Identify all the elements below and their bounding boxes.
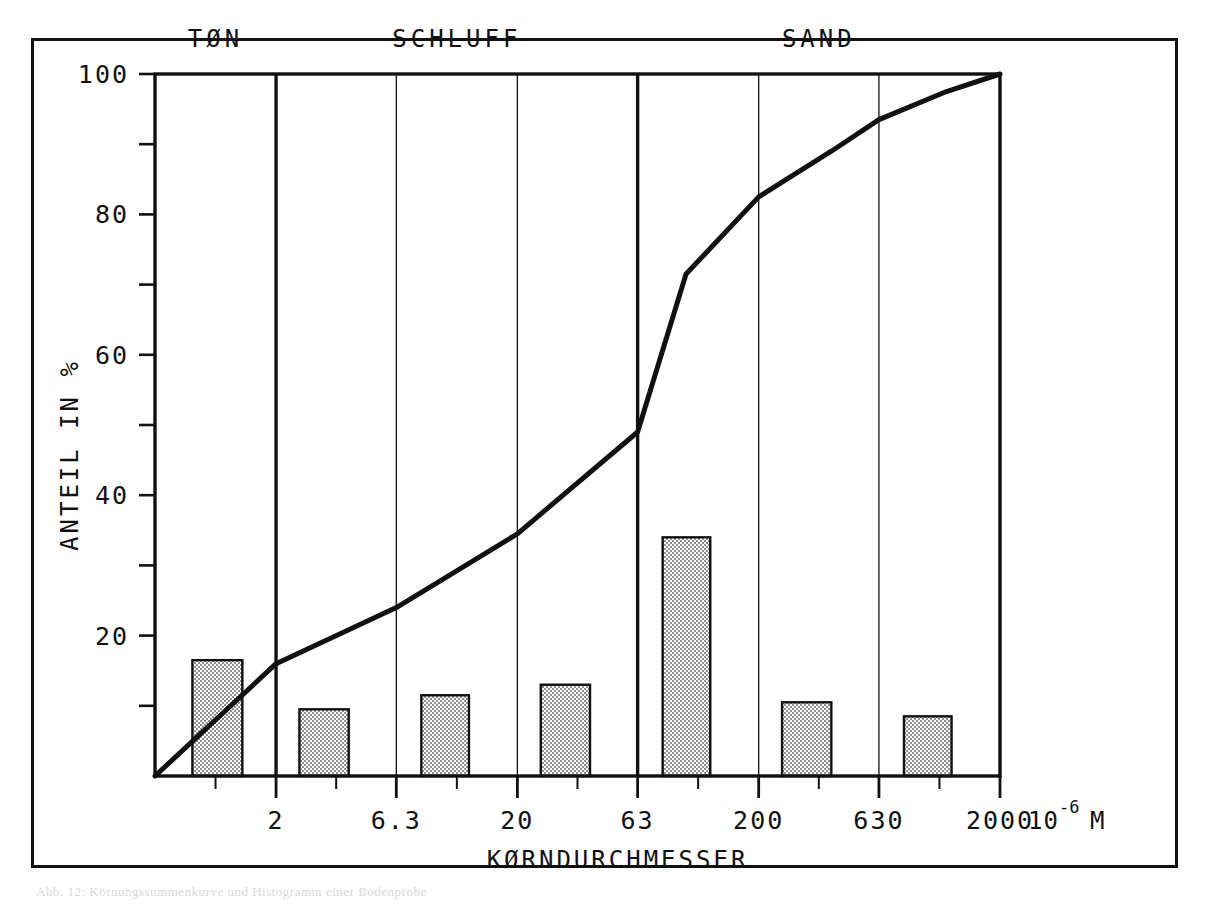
x-tick-label-6.3: 6.3 bbox=[371, 806, 422, 835]
y-tick-label-20: 20 bbox=[95, 622, 129, 651]
grain-size-chart: TØNSCHLUFFSAND2040608010026.320632006302… bbox=[0, 0, 1206, 905]
histogram-bar bbox=[904, 716, 952, 776]
band-label-SCHLUFF: SCHLUFF bbox=[392, 25, 521, 53]
x-tick-label-20: 20 bbox=[500, 806, 534, 835]
x-unit-suffix: M bbox=[1090, 807, 1105, 835]
x-tick-label-63: 63 bbox=[621, 806, 655, 835]
figure-caption: Abb. 12: Körnungssummenkurve und Histogr… bbox=[36, 884, 427, 900]
y-tick-label-80: 80 bbox=[95, 200, 129, 229]
x-tick-label-630: 630 bbox=[853, 806, 904, 835]
cumulative-curve bbox=[155, 74, 1000, 776]
histogram-bar bbox=[421, 695, 469, 776]
x-tick-label-2: 2 bbox=[268, 806, 285, 835]
band-label-SAND: SAND bbox=[782, 25, 856, 53]
y-tick-label-60: 60 bbox=[95, 341, 129, 370]
x-unit-exponent: -6 bbox=[1059, 797, 1079, 817]
x-tick-label-2000: 2000 bbox=[966, 806, 1034, 835]
histogram-bar bbox=[299, 709, 348, 776]
figure-container: TØNSCHLUFFSAND2040608010026.320632006302… bbox=[0, 0, 1206, 905]
x-axis-title: KØRNDURCHMESSER bbox=[487, 846, 749, 874]
histogram-bar bbox=[663, 537, 711, 776]
x-tick-label-200: 200 bbox=[733, 806, 784, 835]
band-label-TØN: TØN bbox=[188, 25, 243, 53]
y-axis-title: ANTEIL IN % bbox=[56, 359, 84, 551]
y-tick-label-100: 100 bbox=[78, 60, 129, 89]
histogram-bar bbox=[541, 685, 590, 776]
histogram-bar bbox=[782, 702, 831, 776]
x-unit-base: 10 bbox=[1028, 807, 1059, 835]
plot-box bbox=[155, 74, 1000, 776]
y-tick-label-40: 40 bbox=[95, 481, 129, 510]
